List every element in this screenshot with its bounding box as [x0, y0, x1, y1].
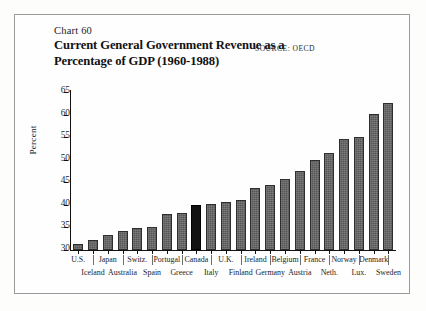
y-tick-mark	[64, 205, 68, 206]
plot-area	[71, 92, 396, 250]
bar-us	[73, 244, 83, 250]
y-tick-mark	[64, 115, 68, 116]
x-label-separator	[123, 255, 124, 265]
x-tick-mark	[255, 251, 256, 254]
x-tick-mark	[108, 251, 109, 254]
x-axis-line	[70, 250, 396, 251]
bar-switz	[132, 228, 142, 250]
x-tick-mark	[388, 251, 389, 254]
bar-austria	[295, 171, 305, 250]
bar-italy	[206, 204, 216, 250]
x-label-separator	[241, 255, 242, 265]
y-tick-label: 30	[48, 243, 70, 253]
bar-australia	[118, 231, 128, 250]
bar-norway	[339, 139, 349, 250]
x-tick-mark	[226, 251, 227, 254]
x-label-separator	[182, 255, 183, 265]
bar-greece	[177, 213, 187, 250]
bar-neth	[324, 153, 334, 250]
bar-france	[310, 160, 320, 250]
bar-japan	[103, 235, 113, 250]
x-label-separator	[388, 255, 389, 265]
y-tick-mark	[64, 92, 68, 93]
y-tick-mark	[64, 250, 68, 251]
x-tick-mark	[285, 251, 286, 254]
y-tick-mark	[64, 160, 68, 161]
x-tick-mark	[196, 251, 197, 254]
chart-title-line-2: Percentage of GDP (1960-1988)	[54, 54, 394, 70]
bar-lux	[354, 137, 364, 250]
x-tick-mark	[211, 251, 212, 254]
y-axis-ticks: 3035404550556065	[41, 92, 70, 250]
x-tick-mark	[123, 251, 124, 254]
x-tick-mark	[93, 251, 94, 254]
bar-denmark	[369, 114, 379, 250]
y-tick-label: 55	[48, 130, 70, 140]
x-axis-label-sweden: Sweden	[371, 267, 405, 278]
bar-sweden	[383, 103, 393, 250]
chart-source: SOURCE: OECD	[255, 44, 315, 53]
x-label-separator	[359, 255, 360, 265]
y-tick-label: 40	[48, 198, 70, 208]
chart-title-line-1: Current General Government Revenue as a	[54, 38, 394, 54]
y-axis-label: Percent	[28, 105, 38, 175]
x-tick-mark	[374, 251, 375, 254]
chart-heading: Chart 60 Current General Government Reve…	[54, 24, 394, 69]
x-label-separator	[270, 255, 271, 265]
bar-canada	[191, 205, 201, 250]
x-label-separator	[93, 255, 94, 265]
x-axis-label-denmark: Denmark	[357, 254, 391, 265]
chart-number: Chart 60	[54, 24, 394, 37]
x-tick-mark	[300, 251, 301, 254]
x-tick-mark	[167, 251, 168, 254]
bar-spain	[147, 227, 157, 250]
bar-uk	[221, 202, 231, 250]
x-tick-mark	[315, 251, 316, 254]
x-tick-mark	[241, 251, 242, 254]
x-label-separator	[329, 255, 330, 265]
x-tick-mark	[270, 251, 271, 254]
chart-title: Current General Government Revenue as a …	[54, 38, 394, 69]
x-tick-mark	[137, 251, 138, 254]
bar-portugal	[162, 214, 172, 250]
bar-iceland	[88, 240, 98, 250]
x-axis-labels-upper: U.S.JapanSwitz.PortugalCanadaU.K.Ireland…	[71, 254, 396, 266]
y-tick-label: 50	[48, 153, 70, 163]
x-tick-mark	[344, 251, 345, 254]
y-tick-label: 35	[48, 220, 70, 230]
x-axis-labels-lower: IcelandAustraliaSpainGreeceItalyFinlandG…	[71, 267, 396, 279]
y-tick-label: 45	[48, 175, 70, 185]
x-label-separator	[211, 255, 212, 265]
y-tick-mark	[64, 182, 68, 183]
y-tick-mark	[64, 227, 68, 228]
y-tick-label: 65	[48, 85, 70, 95]
x-tick-mark	[329, 251, 330, 254]
y-tick-label: 60	[48, 108, 70, 118]
x-tick-mark	[182, 251, 183, 254]
x-tick-mark	[78, 251, 79, 254]
x-label-separator	[300, 255, 301, 265]
chart-figure: Chart 60 Current General Government Reve…	[0, 0, 426, 311]
bar-germany	[265, 185, 275, 250]
bar-belgium	[280, 179, 290, 250]
y-tick-mark	[64, 137, 68, 138]
x-tick-mark	[152, 251, 153, 254]
bar-ireland	[250, 188, 260, 250]
bar-finland	[236, 200, 246, 250]
x-label-separator	[152, 255, 153, 265]
x-tick-mark	[359, 251, 360, 254]
